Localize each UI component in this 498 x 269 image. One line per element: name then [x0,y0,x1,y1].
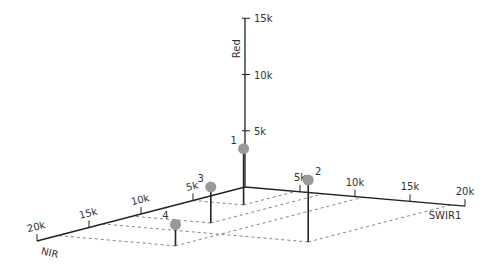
red-tick-label: 5k [254,126,266,137]
projection-line-nir [211,194,323,223]
point-marker [238,143,249,154]
swir1-axis-title: SWIR1 [429,210,462,221]
point-label: 3 [198,173,204,184]
nir-tick-label: 10k [130,192,151,207]
point-label: 1 [230,135,236,146]
nir-tick-label: 15k [78,205,99,220]
swir1-tick-label: 10k [346,177,365,188]
axes: 5k10k15k20kSWIR15k10k15k20kNIR5k10k15kRe… [26,13,475,260]
swir1-tick-label: 15k [401,181,420,192]
projection-line-swir1 [58,236,176,246]
projection-line-swir1 [103,224,309,242]
point-marker [205,181,216,192]
chart-3d-stem: 5k10k15k20kSWIR15k10k15k20kNIR5k10k15kRe… [0,0,498,269]
swir1-tick-label: 20k [456,186,475,197]
nir-axis-title: NIR [40,245,60,260]
point-marker [170,219,181,230]
point-label: 2 [315,166,321,177]
red-axis-title: Red [231,39,242,58]
point-marker [303,175,314,186]
projection-line-swir1 [193,201,244,205]
red-tick-label: 10k [254,70,273,81]
projection-line-nir [176,197,363,246]
red-tick-label: 15k [254,13,273,24]
point-label: 4 [162,210,168,221]
nir-tick-label: 20k [26,219,47,234]
